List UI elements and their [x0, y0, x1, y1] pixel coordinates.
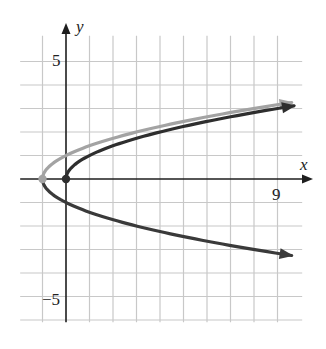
y-tick-label-5: 5: [52, 51, 61, 70]
arrow-head-icon: [281, 102, 296, 113]
y-axis-arrow-icon: [62, 23, 71, 34]
y-tick-label-neg5: −5: [42, 290, 60, 309]
vertex-point: [62, 175, 70, 183]
vertex-point: [38, 175, 46, 183]
x-axis-arrow-icon: [302, 175, 313, 184]
x-axis-label: x: [299, 155, 308, 174]
axes: [20, 23, 313, 322]
x-tick-label-9: 9: [272, 185, 281, 204]
y-axis-label: y: [74, 17, 84, 36]
parabola-graph: x y 9 5 −5: [0, 0, 326, 349]
